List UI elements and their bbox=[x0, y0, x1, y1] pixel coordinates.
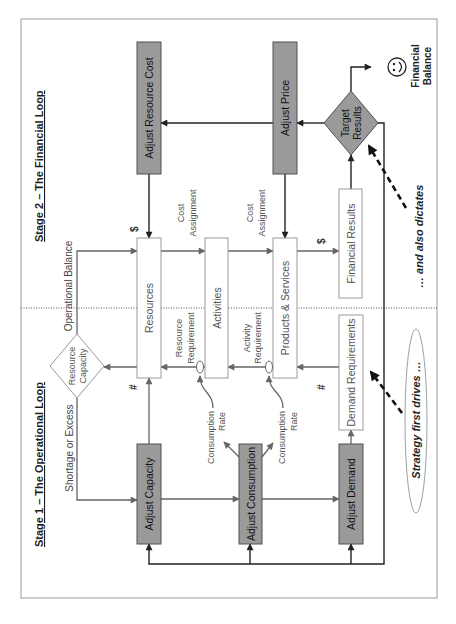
label-cost-assignment-1-line2: Assignment bbox=[188, 189, 198, 237]
label-consumption-rate-1-line1: Consumption bbox=[206, 411, 216, 464]
decision-target-results bbox=[324, 91, 378, 155]
node-adjust-consumption-label: Adjust Consumption bbox=[245, 447, 257, 541]
consumption-node-activity-requirement bbox=[266, 361, 273, 373]
node-adjust-demand-label: Adjust Demand bbox=[345, 458, 357, 530]
label-cost-assignment-2-line2: Assignment bbox=[257, 189, 267, 237]
node-adjust-resource-cost-label: Adjust Resource Cost bbox=[143, 57, 155, 159]
label-activity-requirement-line2: Requirement bbox=[253, 312, 263, 364]
arrow-capacity-shortage-to-adjust-capacity bbox=[77, 398, 137, 500]
node-resources-label: Resources bbox=[143, 283, 155, 333]
label-shortage-or-excess: Shortage or Excess bbox=[64, 404, 75, 491]
node-adjust-capacity-label: Adjust Capacity bbox=[143, 457, 155, 531]
label-financial-balance-line2: Balance bbox=[422, 46, 433, 85]
decision-resource-capacity bbox=[50, 334, 104, 398]
smiley-icon bbox=[388, 58, 406, 76]
label-count-demand: # bbox=[316, 384, 327, 390]
consumption-node-resource-requirement bbox=[197, 361, 204, 373]
curve-consumption-rate-2 bbox=[269, 376, 283, 408]
rotated-diagram-group: Stage 1 – The Operational Loop Stage 2 –… bbox=[21, 19, 437, 598]
label-activity-requirement-line1: Activity bbox=[242, 323, 252, 352]
annotation-and-also-dictates: … and also dictates bbox=[413, 185, 425, 288]
label-cost-assignment-1-line1: Cost bbox=[176, 203, 186, 222]
decision-target-results-line2: Results bbox=[352, 106, 363, 139]
label-operational-balance: Operational Balance bbox=[63, 240, 74, 331]
arrow-consumption-rate-left bbox=[224, 442, 239, 457]
label-count-resources: # bbox=[128, 384, 139, 390]
label-resource-requirement-line2: Requirement bbox=[186, 312, 196, 364]
arrow-consumption-rate-right bbox=[262, 443, 273, 457]
decision-resource-capacity-line1: Resource bbox=[67, 347, 77, 386]
dashed-arrow-strategy-to-demand bbox=[371, 372, 402, 413]
label-consumption-rate-2-line1: Consumption bbox=[277, 411, 287, 464]
stage2-title: Stage 2 – The Financial Loop bbox=[33, 90, 45, 242]
arrow-target-to-financial-balance bbox=[351, 67, 371, 91]
node-products-services-label: Products & Services bbox=[279, 261, 291, 356]
node-financial-results-label: Financial Results bbox=[345, 204, 357, 284]
arrow-capacity-to-resources-balance bbox=[77, 251, 137, 334]
label-dollar-financial: $ bbox=[316, 238, 327, 244]
label-financial-balance-line1: Financial bbox=[410, 44, 421, 88]
node-adjust-price-label: Adjust Price bbox=[279, 80, 291, 136]
label-consumption-rate-2-line2: Rate bbox=[289, 412, 299, 431]
stage1-title: Stage 1 – The Operational Loop bbox=[33, 382, 45, 547]
annotation-strategy-first-drives: Strategy first drives … bbox=[410, 361, 422, 478]
decision-target-results-line1: Target bbox=[340, 109, 351, 137]
curve-consumption-rate-1 bbox=[200, 376, 213, 408]
label-consumption-rate-1-line2: Rate bbox=[217, 412, 227, 431]
operational-financial-loop-diagram: Stage 1 – The Operational Loop Stage 2 –… bbox=[0, 0, 456, 624]
node-activities-label: Activities bbox=[211, 287, 223, 328]
decision-resource-capacity-line2: Capacity bbox=[78, 348, 88, 384]
node-demand-requirements-label: Demand Requirements bbox=[345, 319, 357, 427]
label-resource-requirement-line1: Resource bbox=[174, 319, 184, 358]
label-cost-assignment-2-line1: Cost bbox=[245, 203, 255, 222]
label-dollar-resources: $ bbox=[129, 226, 140, 232]
dashed-arrow-dictates-to-target bbox=[369, 146, 406, 208]
